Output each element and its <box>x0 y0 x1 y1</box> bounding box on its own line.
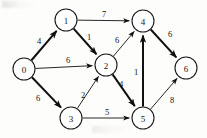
graph-node-4[interactable]: 4 <box>132 10 154 32</box>
edge-weight-1-2: 1 <box>87 32 91 42</box>
node-label-0: 0 <box>22 65 27 75</box>
node-label-2: 2 <box>104 61 109 71</box>
graph-edge-0-to-1 <box>31 31 56 60</box>
edge-weight-4-6: 6 <box>168 29 172 39</box>
graph-edge-4-to-6 <box>151 29 177 57</box>
graph-figure: 466716425618 0123456 <box>0 0 207 138</box>
graph-node-0[interactable]: 0 <box>13 58 35 80</box>
graph-edge-2-to-5 <box>113 74 135 106</box>
edge-weight-0-1: 4 <box>37 36 42 46</box>
edge-weight-2-4: 6 <box>115 35 119 45</box>
edge-weight-3-5: 5 <box>105 107 109 117</box>
edge-weight-5-4: 1 <box>134 67 138 77</box>
edge-weight-5-6: 8 <box>170 95 174 105</box>
graph-edge-1-to-4 <box>78 20 130 21</box>
edge-weight-2-5: 4 <box>119 79 124 89</box>
node-label-3: 3 <box>69 114 74 124</box>
graph-node-1[interactable]: 1 <box>55 9 77 31</box>
graph-node-5[interactable]: 5 <box>132 107 154 129</box>
node-label-6: 6 <box>184 64 189 74</box>
node-label-4: 4 <box>141 17 146 27</box>
graph-canvas: 466716425618 0123456 <box>0 0 207 138</box>
edge-weight-0-3: 6 <box>36 93 40 103</box>
node-label-5: 5 <box>141 114 146 124</box>
edge-weight-0-2: 6 <box>66 55 70 65</box>
edge-weight-1-4: 7 <box>102 9 106 19</box>
edge-weight-3-2: 2 <box>81 90 85 100</box>
node-label-1: 1 <box>64 16 69 26</box>
graph-node-3[interactable]: 3 <box>60 107 82 129</box>
graph-node-2[interactable]: 2 <box>95 54 117 76</box>
graph-edge-1-to-2 <box>74 29 97 55</box>
graph-edge-0-to-2 <box>35 66 92 69</box>
graph-node-6[interactable]: 6 <box>175 57 197 79</box>
